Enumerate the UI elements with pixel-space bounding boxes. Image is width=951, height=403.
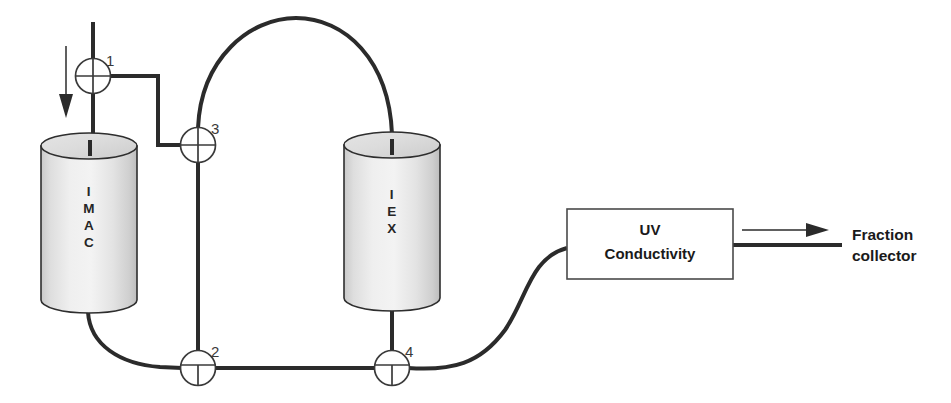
detector-label-line1: UV [640,221,661,238]
fraction-collector-label-line2: collector [852,247,917,264]
flow-arrow-head-icon [806,223,829,237]
iex-letter-3: X [387,221,397,236]
imac-letter-1: I [87,184,91,199]
tube-valve1-to-valve3 [110,76,182,145]
valve-2-number: 2 [211,343,219,360]
imac-letter-3: A [84,218,94,233]
iex-letter-2: E [387,204,397,219]
fraction-collector-label-line1: Fraction [852,226,913,243]
valve-4-number: 4 [405,343,413,360]
uv-conductivity-box[interactable] [567,209,733,279]
valve-1-number: 1 [106,52,114,69]
iex-letter-1: I [390,187,394,202]
diagram-canvas: I M A C I E X 1 2 3 4 UV Conductivity Fr… [0,0,951,403]
inlet-arrow-head-icon [59,94,73,118]
chromatography-flow-diagram: I M A C I E X 1 2 3 4 UV Conductivity Fr… [0,0,951,403]
valve-3-number: 3 [211,120,219,137]
detector-label-line2: Conductivity [605,245,696,262]
imac-letter-2: M [83,201,95,216]
imac-letter-4: C [84,235,94,250]
tube-arch-valve3-to-iex [198,18,392,134]
tube-imac-outlet-to-valve2 [88,312,182,368]
